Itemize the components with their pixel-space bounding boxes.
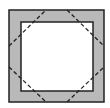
inner-square xyxy=(21,22,93,91)
geometry-diagram xyxy=(0,0,110,108)
